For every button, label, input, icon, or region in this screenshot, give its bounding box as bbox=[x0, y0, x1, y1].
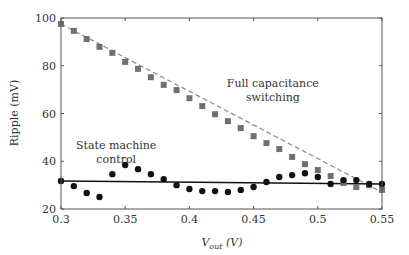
mean-line-solid bbox=[61, 181, 382, 184]
square-marker bbox=[84, 36, 90, 42]
x-tick-label: 0.45 bbox=[241, 213, 266, 226]
ripple-vs-vout-chart: 0.30.350.40.450.50.5520406080100 Full ca… bbox=[0, 0, 409, 255]
xlabel-unit: (V) bbox=[223, 236, 243, 249]
y-tick-label: 20 bbox=[42, 203, 56, 216]
square-marker bbox=[315, 167, 321, 173]
annotation-label: State machinecontrol bbox=[76, 139, 156, 166]
square-marker bbox=[276, 146, 282, 152]
circle-marker bbox=[225, 189, 231, 195]
square-marker bbox=[186, 95, 192, 101]
square-marker bbox=[328, 173, 334, 179]
circle-marker bbox=[161, 176, 167, 182]
circle-marker bbox=[263, 179, 269, 185]
circle-marker bbox=[315, 174, 321, 180]
plot-frame bbox=[61, 18, 382, 209]
xlabel-sub: out bbox=[209, 242, 223, 251]
circle-marker bbox=[186, 186, 192, 192]
square-marker bbox=[199, 103, 205, 109]
annotation-label: Full capacitanceswitching bbox=[227, 77, 319, 104]
circle-marker bbox=[289, 172, 295, 178]
circle-marker bbox=[148, 171, 154, 177]
circle-marker bbox=[366, 181, 372, 187]
square-marker bbox=[122, 59, 128, 65]
circle-marker bbox=[327, 181, 333, 187]
circle-marker bbox=[276, 174, 282, 180]
x-tick-label: 0.55 bbox=[370, 213, 395, 226]
annotation-line: control bbox=[96, 153, 136, 166]
y-tick-label: 80 bbox=[42, 60, 56, 73]
circle-marker bbox=[212, 188, 218, 194]
square-marker bbox=[238, 125, 244, 131]
circle-marker bbox=[96, 194, 102, 200]
circle-marker bbox=[302, 170, 308, 176]
annotations: Full capacitanceswitchingState machineco… bbox=[76, 77, 319, 166]
annotation-line: State machine bbox=[76, 139, 156, 152]
square-marker bbox=[212, 111, 218, 117]
square-marker bbox=[353, 184, 359, 190]
square-marker bbox=[251, 133, 257, 139]
x-axis-title: Vout (V) bbox=[201, 236, 242, 251]
square-marker bbox=[71, 28, 77, 34]
circle-marker bbox=[71, 183, 77, 189]
annotation-line: switching bbox=[246, 91, 300, 104]
circle-marker bbox=[109, 171, 115, 177]
x-tick-label: 0.4 bbox=[181, 213, 199, 226]
y-axis-title: Ripple (mV) bbox=[8, 80, 21, 146]
square-marker bbox=[302, 161, 308, 167]
square-marker bbox=[135, 66, 141, 72]
circle-marker bbox=[238, 187, 244, 193]
circle-marker bbox=[173, 182, 179, 188]
square-marker bbox=[148, 74, 154, 80]
annotation-line: Full capacitance bbox=[227, 77, 319, 90]
trend-line-dashed bbox=[61, 24, 382, 192]
x-tick-label: 0.5 bbox=[309, 213, 327, 226]
square-marker bbox=[174, 87, 180, 93]
circle-marker bbox=[199, 188, 205, 194]
y-tick-label: 40 bbox=[42, 155, 56, 168]
square-marker bbox=[225, 118, 231, 124]
circle-marker bbox=[83, 190, 89, 196]
square-marker bbox=[161, 82, 167, 88]
circle-marker bbox=[135, 166, 141, 172]
square-marker bbox=[263, 140, 269, 146]
square-marker bbox=[109, 50, 115, 56]
y-tick-label: 100 bbox=[35, 12, 56, 25]
circle-marker bbox=[340, 177, 346, 183]
y-tick-label: 60 bbox=[42, 108, 56, 121]
series-layer bbox=[58, 21, 385, 200]
circle-marker bbox=[353, 177, 359, 183]
square-marker bbox=[97, 44, 103, 50]
x-tick-label: 0.35 bbox=[113, 213, 138, 226]
circle-marker bbox=[250, 184, 256, 190]
square-marker bbox=[289, 154, 295, 160]
